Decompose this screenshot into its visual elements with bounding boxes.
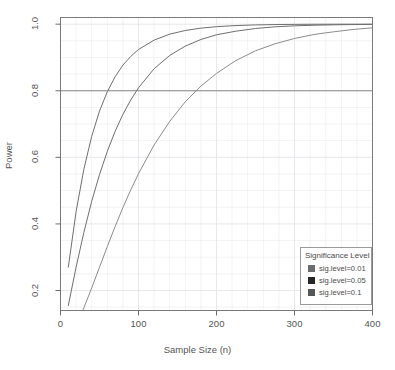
legend-title: Significance Level <box>305 251 368 261</box>
y-tick-label: 0.2 <box>29 278 40 302</box>
y-tick-label: 1.0 <box>29 12 40 36</box>
y-tick-label: 0.4 <box>29 211 40 235</box>
legend-color-swatch <box>308 277 315 284</box>
legend-entry: sig.level=0.1 <box>305 286 368 298</box>
legend-box: Significance Level sig.level=0.01sig.lev… <box>300 247 372 305</box>
x-axis-title: Sample Size (n) <box>0 344 395 355</box>
legend-entry: sig.level=0.05 <box>305 274 368 286</box>
y-tick-label: 0.6 <box>29 145 40 169</box>
legend-color-swatch <box>308 289 315 296</box>
x-tick-label: 200 <box>209 318 225 329</box>
legend-entry: sig.level=0.01 <box>305 262 368 274</box>
legend-entry-label: sig.level=0.1 <box>319 288 361 297</box>
legend-color-swatch <box>308 265 315 272</box>
plot-canvas <box>0 0 395 370</box>
legend-entries: sig.level=0.01sig.level=0.05sig.level=0.… <box>305 262 368 298</box>
power-curve-chart: Power Sample Size (n) 0100200300400 0.20… <box>0 0 395 370</box>
x-tick-label: 400 <box>365 318 381 329</box>
y-tick-label: 0.8 <box>29 78 40 102</box>
x-tick-label: 0 <box>58 318 63 329</box>
legend-entry-label: sig.level=0.05 <box>319 276 366 285</box>
x-tick-label: 300 <box>287 318 303 329</box>
x-tick-label: 100 <box>131 318 147 329</box>
legend-entry-label: sig.level=0.01 <box>319 264 366 273</box>
y-axis-title: Power <box>3 126 14 186</box>
